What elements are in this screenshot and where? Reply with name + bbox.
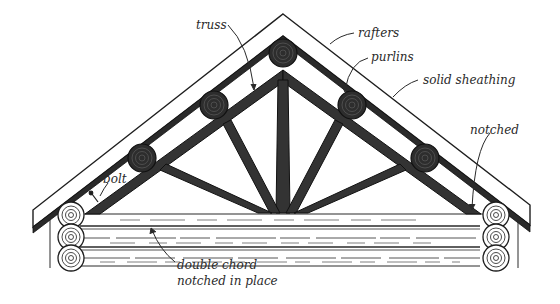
label-rafters: rafters	[358, 26, 399, 40]
label-double-chord: double chord	[177, 258, 257, 272]
bolt-icon	[89, 191, 98, 202]
label-truss: truss	[196, 18, 227, 32]
log-ends-left	[58, 202, 84, 271]
truss-diagram	[0, 0, 560, 304]
log-ends-right	[483, 202, 509, 271]
label-purlins: purlins	[371, 50, 414, 64]
label-bolt: bolt	[103, 172, 127, 186]
label-solid-sheathing: solid sheathing	[423, 73, 516, 87]
label-notched-in-place: notched in place	[177, 274, 278, 288]
log-wall	[50, 214, 518, 268]
label-notched: notched	[470, 123, 519, 137]
